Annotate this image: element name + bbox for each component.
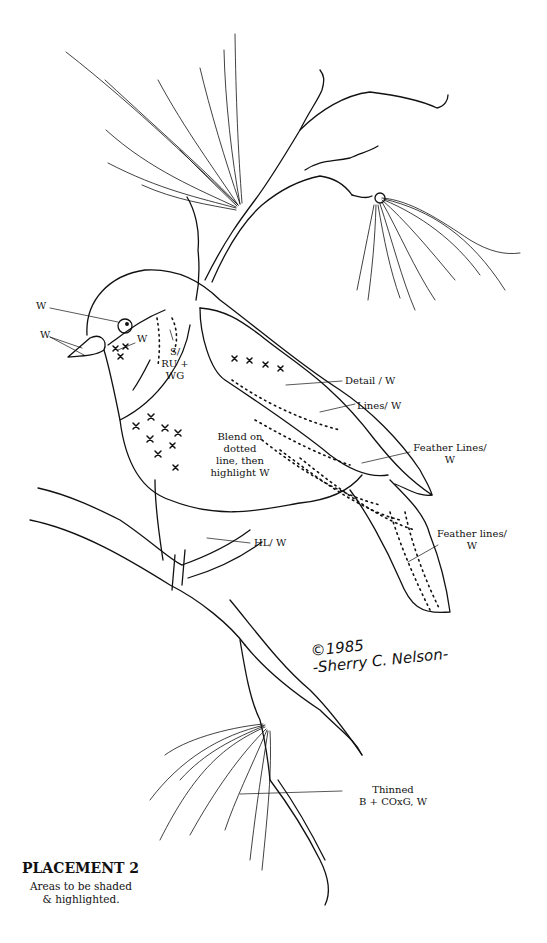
upper-pine-needles bbox=[66, 34, 242, 210]
label-breast-blend: Blend on dotted line, then highlight W bbox=[205, 431, 275, 479]
lower-branch bbox=[30, 480, 362, 905]
label-wing-lines: Lines/ W bbox=[357, 400, 401, 412]
page-title: PLACEMENT 2 bbox=[22, 860, 139, 876]
right-pine-needles bbox=[357, 198, 520, 310]
upper-branch bbox=[187, 70, 448, 300]
label-neck-shading: S/ RU + WG bbox=[160, 346, 190, 382]
lower-pine-needles bbox=[150, 724, 271, 870]
dotted-shading bbox=[157, 318, 440, 610]
label-foot-highlight: HL/ W bbox=[254, 537, 286, 549]
label-tail-feathers: Feather lines/ W bbox=[436, 528, 508, 552]
label-beak-highlight: W bbox=[40, 329, 50, 341]
label-pine-needles: Thinned B + COxG, W bbox=[355, 784, 431, 808]
page-subtitle: Areas to be shaded & highlighted. bbox=[22, 880, 140, 906]
label-primary-feathers: Feather Lines/ W bbox=[412, 442, 488, 466]
label-wing-detail: Detail / W bbox=[345, 375, 395, 387]
label-eye-highlight: W bbox=[36, 300, 46, 312]
label-cheek-highlight: W bbox=[137, 333, 147, 345]
